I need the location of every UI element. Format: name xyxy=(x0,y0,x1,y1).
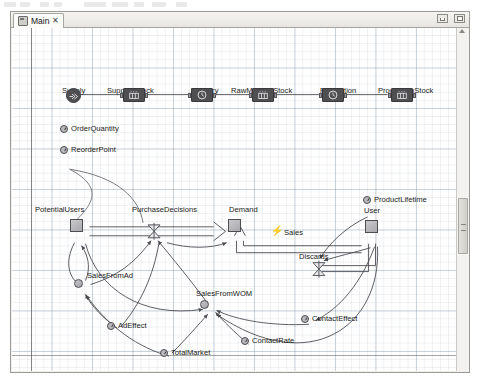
param-totalmarket-icon[interactable] xyxy=(160,349,168,357)
label-sales: Sales xyxy=(284,228,303,237)
port-in xyxy=(120,93,123,98)
label-totalmarket: TotalMarket xyxy=(171,348,210,357)
node-supplierstock[interactable] xyxy=(123,88,145,102)
port-in xyxy=(388,93,391,98)
diagram-icon xyxy=(18,16,28,26)
scroll-up-arrow-icon[interactable] xyxy=(459,29,465,33)
queue-icon xyxy=(124,89,144,101)
queue-icon xyxy=(253,89,273,101)
aux-salesfromad[interactable] xyxy=(74,279,83,288)
clock-icon xyxy=(192,89,212,101)
port-out xyxy=(145,93,148,98)
tab-main[interactable]: Main ✕ xyxy=(13,13,64,28)
label-reorderpoint: ReorderPoint xyxy=(71,145,116,154)
label-purchasedecisions: PurchaseDecisions xyxy=(132,205,197,214)
toolbar-ghost-strip xyxy=(0,0,478,10)
editor-window: Main ✕ xyxy=(10,11,470,373)
stock-potentialusers[interactable] xyxy=(70,219,83,232)
clock-icon xyxy=(323,89,343,101)
label-orderquantity: OrderQuantity xyxy=(71,124,119,133)
label-adeffect: AdEffect xyxy=(118,321,147,330)
param-reorderpoint-icon[interactable] xyxy=(60,146,68,154)
node-supply[interactable] xyxy=(66,88,81,103)
queue-icon xyxy=(392,89,412,101)
scrollbar-thumb[interactable] xyxy=(458,198,468,254)
port-out xyxy=(344,93,347,98)
diagram-canvas[interactable]: Supply SupplierStock xyxy=(12,28,456,371)
param-adeffect-icon[interactable] xyxy=(107,322,115,330)
canvas-origin-horizontal-line xyxy=(12,355,456,356)
close-icon[interactable]: ✕ xyxy=(52,17,58,25)
tab-bar: Main ✕ xyxy=(11,12,469,28)
aux-salesfromwom[interactable] xyxy=(200,300,209,309)
label-salesfromad: SalesFromAd xyxy=(87,271,133,280)
port-out xyxy=(413,93,416,98)
port-out xyxy=(213,93,216,98)
label-demand: Demand xyxy=(229,205,258,214)
port-in xyxy=(249,93,252,98)
node-production[interactable] xyxy=(322,88,344,102)
label-contactrate: ContactRate xyxy=(252,336,294,345)
port-in xyxy=(188,93,191,98)
window-buttons xyxy=(437,14,465,23)
label-user: User xyxy=(364,206,380,215)
screenshot-root: Main ✕ xyxy=(0,0,478,382)
diagram-canvas-wrap[interactable]: Supply SupplierStock xyxy=(12,28,456,371)
label-salesfromwom: SalesFromWOM xyxy=(196,289,252,298)
maximize-button[interactable] xyxy=(454,14,465,23)
port-out xyxy=(274,93,277,98)
param-contacteffect-icon[interactable] xyxy=(301,315,309,323)
source-icon xyxy=(67,90,80,103)
param-productlifetime-icon[interactable] xyxy=(363,196,371,204)
label-productlifetime: ProductLifetime xyxy=(374,195,427,204)
node-productionstock[interactable] xyxy=(391,88,413,102)
lightning-icon: ⚡ xyxy=(271,226,283,236)
label-potentialusers: PotentialUsers xyxy=(35,205,84,214)
label-contacteffect: ContactEffect xyxy=(312,314,357,323)
tab-label: Main xyxy=(31,16,49,26)
stock-user[interactable] xyxy=(365,220,378,233)
stock-demand[interactable] xyxy=(228,219,241,232)
node-delivery[interactable] xyxy=(191,88,213,102)
param-contactrate-icon[interactable] xyxy=(241,337,249,345)
label-discards: Discards xyxy=(299,252,329,261)
canvas-origin-vertical-line xyxy=(31,28,32,371)
minimize-button[interactable] xyxy=(437,14,448,23)
port-in xyxy=(319,93,322,98)
node-rawmaterialstock[interactable] xyxy=(252,88,274,102)
param-orderquantity-icon[interactable] xyxy=(60,125,68,133)
vertical-scrollbar[interactable] xyxy=(456,28,468,371)
